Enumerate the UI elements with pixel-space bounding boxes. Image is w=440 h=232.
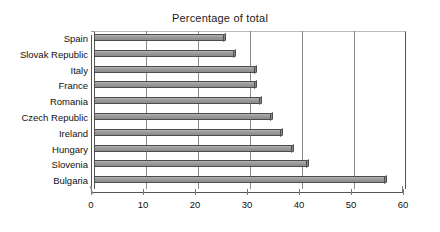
x-tick-label-10: 10: [138, 199, 149, 210]
bar-end-cap: [254, 81, 257, 90]
bar-romania: [94, 97, 260, 104]
x-tick-40: [299, 189, 300, 195]
x-tick-0: [91, 189, 92, 195]
x-tick-label-20: 20: [190, 199, 201, 210]
x-axis-tick-labels: 0102030405060: [0, 199, 440, 215]
category-label-ireland: Ireland: [2, 128, 88, 139]
category-label-france: France: [2, 80, 88, 91]
category-label-czech-republic: Czech Republic: [2, 112, 88, 123]
x-tick-label-0: 0: [88, 199, 93, 210]
category-label-bulgaria: Bulgaria: [2, 175, 88, 186]
x-tick-label-40: 40: [294, 199, 305, 210]
bar-slovenia: [94, 160, 307, 167]
bar-end-cap: [259, 96, 262, 105]
bar-end-cap: [291, 144, 294, 153]
x-tick-50: [351, 189, 352, 195]
x-tick-20: [195, 189, 196, 195]
bar-end-cap: [280, 128, 283, 137]
bar-row: [94, 157, 406, 173]
bar-row: [94, 126, 406, 142]
bar-hungary: [94, 145, 292, 152]
plot-area: [91, 31, 406, 193]
category-label-slovak-republic: Slovak Republic: [2, 49, 88, 60]
y-axis-category-labels: SpainSlovak RepublicItalyFranceRomaniaCz…: [0, 31, 88, 193]
chart-title: Percentage of total: [0, 12, 440, 24]
category-label-italy: Italy: [2, 65, 88, 76]
bar-row: [94, 110, 406, 126]
bar-row: [94, 47, 406, 63]
y-axis-line: [91, 35, 92, 193]
x-tick-label-50: 50: [346, 199, 357, 210]
category-label-slovenia: Slovenia: [2, 159, 88, 170]
bar-slovak-republic: [94, 50, 234, 57]
bar-row: [94, 173, 406, 189]
bar-row: [94, 78, 406, 94]
bar-bulgaria: [94, 176, 385, 183]
bar-end-cap: [254, 65, 257, 74]
x-tick-10: [143, 189, 144, 195]
bar-end-cap: [306, 160, 309, 169]
x-tick-60: [403, 189, 404, 195]
bar-row: [94, 31, 406, 47]
bar-end-cap: [223, 33, 226, 42]
bar-end-cap: [384, 175, 387, 184]
x-tick-30: [247, 189, 248, 195]
bar-row: [94, 94, 406, 110]
bar-czech-republic: [94, 113, 271, 120]
bar-end-cap: [270, 112, 273, 121]
bar-ireland: [94, 129, 281, 136]
x-tick-label-60: 60: [398, 199, 409, 210]
bar-chart: Percentage of total SpainSlovak Republic…: [0, 0, 440, 232]
category-label-hungary: Hungary: [2, 144, 88, 155]
category-label-spain: Spain: [2, 33, 88, 44]
x-tick-label-30: 30: [242, 199, 253, 210]
bar-spain: [94, 34, 224, 41]
bar-end-cap: [233, 49, 236, 58]
category-label-romania: Romania: [2, 96, 88, 107]
bar-row: [94, 63, 406, 79]
bar-italy: [94, 66, 255, 73]
bar-france: [94, 81, 255, 88]
bar-row: [94, 142, 406, 158]
